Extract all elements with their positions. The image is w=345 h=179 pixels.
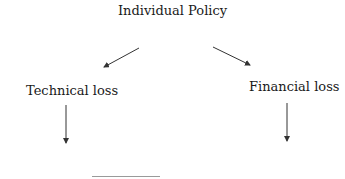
diagram-edges — [0, 0, 345, 179]
arrow-root-to-technical — [104, 48, 139, 67]
arrow-root-to-financial — [213, 47, 250, 65]
bottom-rule — [92, 176, 160, 177]
